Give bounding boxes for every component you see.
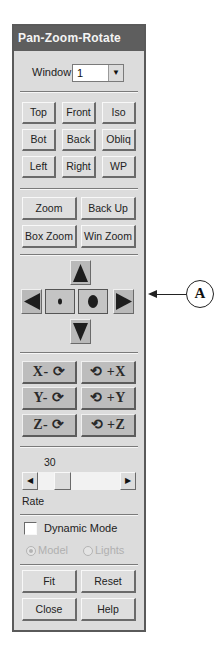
view-obliq-button[interactable]: Obliq <box>102 129 136 151</box>
fit-button[interactable]: Fit <box>22 570 77 593</box>
view-left-button[interactable]: Left <box>22 156 56 178</box>
button-label: ⟲ +X <box>90 364 126 379</box>
rate-scrollbar-thumb[interactable] <box>54 472 71 490</box>
scroll-right-arrow-icon[interactable]: ▶ <box>120 472 136 490</box>
button-label: ⟲ +Z <box>91 417 126 432</box>
scroll-left-arrow-icon[interactable]: ◀ <box>22 472 38 490</box>
rotate-x-minus-button[interactable]: X- ⟳ <box>22 361 77 384</box>
zoom-button[interactable]: Zoom <box>22 197 77 220</box>
separator <box>20 564 138 566</box>
callout-line <box>152 294 186 295</box>
small-dot-icon <box>46 290 74 313</box>
button-label: Obliq <box>103 130 134 149</box>
radio-lights[interactable] <box>83 546 93 556</box>
dynamic-mode-label: Dynamic Mode <box>44 522 117 534</box>
arrow-right-icon <box>114 290 133 313</box>
separator <box>20 188 138 190</box>
button-label: Top <box>23 103 54 122</box>
close-button[interactable]: Close <box>22 598 77 621</box>
rotate-x-plus-button[interactable]: ⟲ +X <box>81 361 136 384</box>
button-label: Zoom <box>23 198 75 218</box>
button-label: X- ⟳ <box>33 364 65 379</box>
view-back-button[interactable]: Back <box>62 129 96 151</box>
button-label: Back Up <box>82 198 134 218</box>
separator <box>20 254 138 256</box>
pan-left-button[interactable] <box>21 289 42 314</box>
button-label: Win Zoom <box>82 226 134 246</box>
rotate-y-minus-button[interactable]: Y- ⟳ <box>22 387 77 410</box>
pan-up-button[interactable] <box>70 260 91 285</box>
pan-zoom-rotate-panel: Pan-Zoom-Rotate Window 1 ▼ Top Front Iso… <box>12 24 146 632</box>
arrow-up-icon <box>71 261 90 284</box>
separator <box>20 514 138 516</box>
separator <box>20 91 138 93</box>
button-label: Front <box>63 103 94 122</box>
view-iso-button[interactable]: Iso <box>102 102 136 124</box>
separator <box>20 446 138 448</box>
button-label: Bot <box>23 130 54 149</box>
rotate-y-plus-button[interactable]: ⟲ +Y <box>81 387 136 410</box>
zoom-in-button[interactable] <box>78 289 108 314</box>
button-label: Box Zoom <box>23 226 75 246</box>
rotate-z-plus-button[interactable]: ⟲ +Z <box>81 414 136 437</box>
radio-model-label: Model <box>38 544 68 556</box>
button-label: Iso <box>103 103 134 122</box>
view-right-button[interactable]: Right <box>62 156 96 178</box>
view-top-button[interactable]: Top <box>22 102 56 124</box>
arrow-down-icon <box>71 320 90 343</box>
arrow-left-icon <box>22 290 41 313</box>
box-zoom-button[interactable]: Box Zoom <box>22 225 77 248</box>
rate-scrollbar[interactable]: ◀ ▶ <box>22 472 136 490</box>
button-label: Close <box>23 599 75 619</box>
view-bot-button[interactable]: Bot <box>22 129 56 151</box>
button-label: Left <box>23 157 54 176</box>
reset-button[interactable]: Reset <box>81 570 136 593</box>
win-zoom-button[interactable]: Win Zoom <box>81 225 136 248</box>
view-front-button[interactable]: Front <box>62 102 96 124</box>
radio-model[interactable] <box>26 546 36 556</box>
window-label: Window <box>32 66 71 78</box>
separator <box>20 352 138 354</box>
help-button[interactable]: Help <box>81 598 136 621</box>
button-label: Y- ⟳ <box>34 390 65 405</box>
radio-lights-label: Lights <box>95 544 124 556</box>
button-label: Z- ⟳ <box>33 417 65 432</box>
pan-right-button[interactable] <box>113 289 134 314</box>
rate-label: Rate <box>22 495 44 507</box>
button-label: WP <box>103 157 134 176</box>
view-wp-button[interactable]: WP <box>102 156 136 178</box>
rotate-z-minus-button[interactable]: Z- ⟳ <box>22 414 77 437</box>
chevron-down-icon[interactable]: ▼ <box>108 65 123 81</box>
zoom-out-button[interactable] <box>45 289 75 314</box>
callout-label-a: A <box>186 280 214 308</box>
large-dot-icon <box>79 290 107 313</box>
pan-down-button[interactable] <box>70 319 91 344</box>
button-label: Back <box>63 130 94 149</box>
window-select-value: 1 <box>77 67 83 79</box>
rate-value: 30 <box>44 456 56 468</box>
button-label: ⟲ +Y <box>90 390 126 405</box>
button-label: Fit <box>23 571 75 591</box>
button-label: Reset <box>82 571 134 591</box>
panel-title: Pan-Zoom-Rotate <box>14 26 144 51</box>
dynamic-mode-checkbox[interactable] <box>24 522 37 535</box>
window-select[interactable]: 1 ▼ <box>72 64 124 82</box>
back-up-button[interactable]: Back Up <box>81 197 136 220</box>
button-label: Help <box>82 599 134 619</box>
button-label: Right <box>63 157 94 176</box>
